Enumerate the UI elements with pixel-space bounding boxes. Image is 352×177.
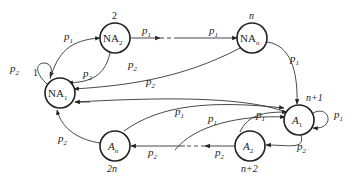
label-a2-a1: p1 (255, 108, 265, 123)
node-an-index: 2n (107, 163, 117, 174)
label-na1-self: p2 (9, 62, 20, 77)
label-a1-a2: p2 (296, 140, 307, 155)
edge-na1-na2 (50, 38, 100, 79)
node-an: An 2n (100, 131, 130, 174)
node-a1: A1 n+1 (284, 92, 323, 135)
node-na1-index: 1 (33, 67, 38, 78)
node-na2: NA2 2 (100, 10, 130, 53)
label-a1-self: p1 (333, 108, 343, 123)
node-na1: NA1 1 (33, 67, 75, 108)
label-a2-dashed: p2 (214, 146, 225, 161)
label-an-a1: p1 (174, 105, 184, 120)
node-na2-index: 2 (112, 10, 117, 21)
node-a2: A2 n+2 (235, 131, 265, 174)
label-dashed-an: p2 (147, 146, 158, 161)
label-na1-na2: p1 (63, 30, 73, 45)
edge-a1-self (313, 111, 328, 128)
label-na2-dashed: p1 (141, 24, 151, 39)
label-far-a1: p1 (207, 112, 217, 127)
edge-na1-self (38, 63, 52, 84)
state-transition-diagram: p2 p1 p1 p1 p2 p2 p2 p1 p1 p1 p1 p1 p2 p… (0, 0, 352, 177)
node-nan-index: n (249, 10, 254, 21)
label-nan-na1: p2 (127, 58, 138, 73)
node-a1-index: n+1 (306, 92, 323, 103)
label-nan-a1: p1 (289, 52, 299, 67)
node-a2-index: n+2 (241, 163, 258, 174)
label-dashed-nan: p1 (208, 24, 218, 39)
label-an-na1: p2 (57, 132, 68, 147)
node-nan: NAn n (237, 10, 267, 53)
edges (38, 38, 328, 150)
